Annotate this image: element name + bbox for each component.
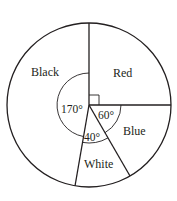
pie-chart: Red Blue White Black 60° 40° 170° (0, 0, 177, 201)
divider-white-black (75, 105, 89, 186)
label-red: Red (113, 66, 132, 80)
angle-label-white: 40° (84, 131, 101, 143)
label-blue: Blue (123, 124, 146, 138)
right-angle-marker (89, 95, 99, 105)
angle-label-blue: 60° (98, 109, 115, 121)
angle-label-black: 170° (61, 103, 83, 115)
label-white: White (84, 157, 113, 171)
label-black: Black (31, 65, 59, 79)
